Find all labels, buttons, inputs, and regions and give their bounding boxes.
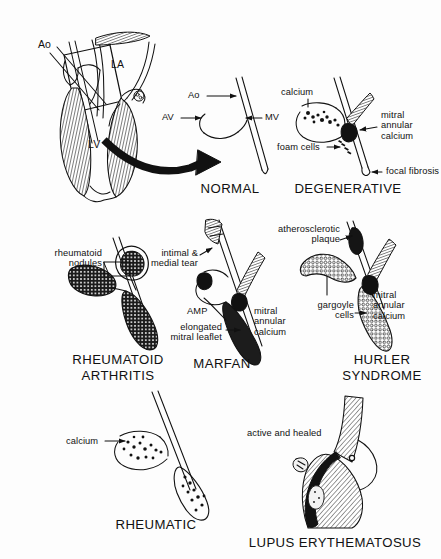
heart-label-aorta: Ao — [38, 39, 51, 51]
heart-label-left-atrium: LA — [111, 59, 124, 71]
hurler-label-atherosclerotic-plaque: atherosclerotic plaque — [248, 224, 340, 245]
lupus-label-active-and-healed: active and healed — [247, 428, 322, 438]
panel-caption-lupus-erythematosus: LUPUS ERYTHEMATOSUS — [236, 535, 434, 551]
degenerative-label-focal-fibrosis: focal fibrosis — [386, 166, 439, 176]
panel-caption-hurler-syndrome: HURLER SYNDROME — [330, 352, 434, 383]
degenerative-label-mitral-annular-calcium: mitral annular calcium — [381, 110, 413, 141]
normal-label-av: AV — [162, 112, 174, 122]
rheumatic-panel-drawing — [115, 391, 209, 520]
mitral-valve-pathology-figure: Ao LA LV Ao AV MV NORMAL calcium mitral … — [0, 0, 441, 559]
marfan-label-mitral-annular-calcium: mitral annular calcium — [254, 306, 286, 337]
degenerative-label-foam-cells: foam cells — [277, 142, 320, 152]
lupus-erythematosus-panel-drawing — [293, 396, 377, 528]
hurler-label-mitral-annular-calcium: mitral annular calcium — [373, 290, 405, 321]
marfan-label-intimal-medial-tear: intimal & medial tear — [122, 248, 198, 269]
panel-caption-normal: NORMAL — [192, 181, 268, 197]
panel-caption-degenerative: DEGENERATIVE — [285, 181, 411, 197]
panel-caption-rheumatic: RHEUMATIC — [107, 517, 205, 533]
rheumatic-label-calcium: calcium — [66, 436, 98, 446]
panel-caption-rheumatoid-arthritis: RHEUMATOID ARTHRITIS — [58, 352, 178, 383]
figure-artwork — [0, 0, 441, 559]
degenerative-label-calcium: calcium — [281, 87, 313, 97]
rheumatoid-label-nodules: rheumatoid nodules — [24, 248, 102, 269]
marfan-label-elongated-mitral-leaflet: elongated mitral leaflet — [138, 322, 222, 343]
marfan-label-amp: AMP — [187, 306, 207, 316]
heart-overview-drawing — [50, 32, 221, 202]
normal-label-mv: MV — [265, 112, 279, 122]
panel-caption-marfan: MARFAN — [178, 356, 266, 372]
normal-label-ao: Ao — [188, 90, 200, 100]
heart-label-left-ventricle: LV — [88, 139, 100, 151]
hurler-label-gargoyle-cells: gargoyle cells — [294, 300, 354, 321]
